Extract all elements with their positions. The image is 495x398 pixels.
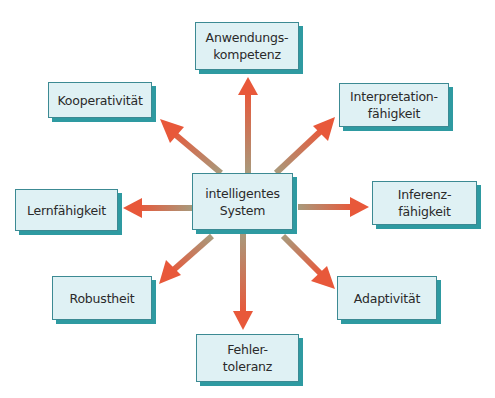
intelligent-system-diagram: Anwendungs- kompetenz Kooperativität Int… (0, 0, 495, 398)
center-label-line: intelligentes (205, 185, 279, 202)
node-label-line: kompetenz (206, 46, 289, 63)
node-label-line: fähigkeit (350, 105, 438, 122)
node-center-intelligent-system: intelligentes System (192, 173, 293, 230)
node-label-line: Interpretation- (350, 88, 438, 105)
node-label-line: Inferenz- (398, 186, 451, 203)
node-label: Robustheit (69, 290, 134, 307)
node-anwendungskompetenz: Anwendungs- kompetenz (195, 22, 299, 70)
arrow-to-kooperativitaet (160, 119, 221, 173)
arrow-to-lernfaehigkeit (123, 198, 192, 218)
node-label: Kooperativität (57, 92, 142, 109)
node-interpretationfaehigkeit: Interpretation- fähigkeit (339, 83, 449, 127)
arrow-to-adaptivitaet (283, 236, 335, 289)
node-adaptivitaet: Adaptivität (337, 276, 437, 320)
node-kooperativitaet: Kooperativität (48, 82, 152, 118)
node-inferenzfaehigkeit: Inferenz- fähigkeit (372, 181, 477, 225)
arrow-to-anwendungskompetenz (238, 77, 258, 173)
node-fehlertoleranz: Fehler- toleranz (196, 334, 299, 382)
node-label-line: Fehler- (223, 341, 272, 358)
arrow-to-robustheit (159, 236, 212, 284)
arrow-to-inferenzfaehigkeit (298, 197, 369, 217)
node-label: Adaptivität (354, 290, 420, 307)
arrow-to-fehlertoleranz (233, 233, 253, 330)
node-lernfaehigkeit: Lernfähigkeit (15, 189, 118, 231)
node-label: Lernfähigkeit (27, 202, 106, 219)
node-label-line: toleranz (223, 358, 272, 375)
node-label-line: Anwendungs- (206, 29, 289, 46)
arrow-to-interpretationfaehigkeit (276, 117, 335, 173)
center-label-line: System (205, 202, 279, 219)
node-robustheit: Robustheit (52, 276, 152, 320)
node-label-line: fähigkeit (398, 203, 451, 220)
